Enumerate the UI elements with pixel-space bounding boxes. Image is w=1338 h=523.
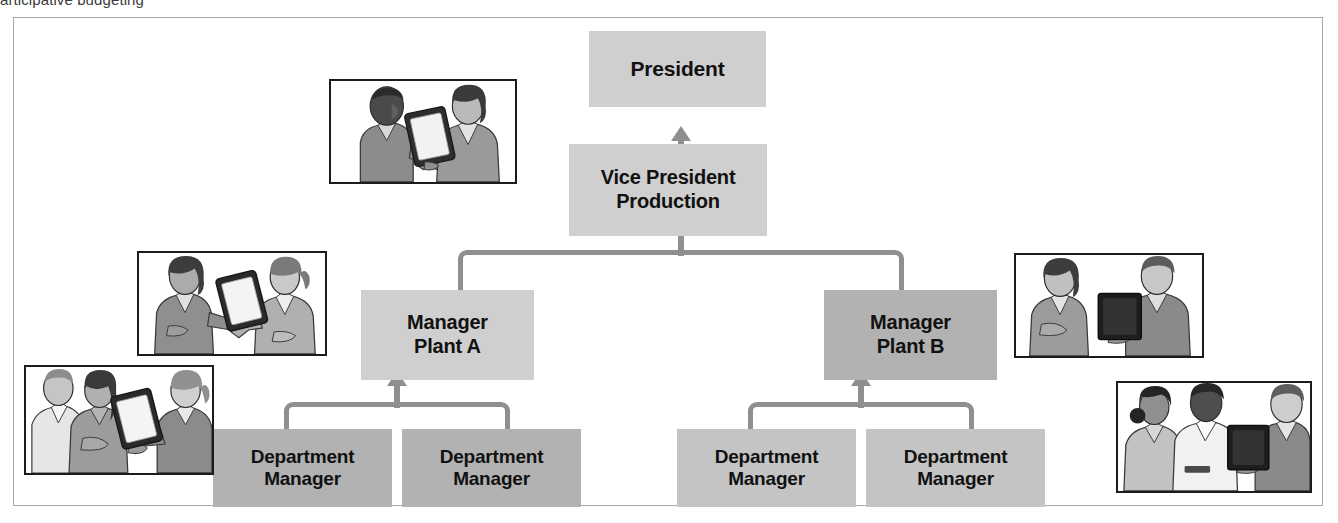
connector-managers-to-vp-stem bbox=[678, 236, 684, 256]
page-caption: articipative budgeting bbox=[0, 0, 144, 8]
figure-frame: President Vice President Production Mana… bbox=[13, 17, 1323, 506]
illustration-top bbox=[329, 79, 517, 184]
node-dept-b1-line1: Department bbox=[715, 446, 819, 468]
node-department-manager-b2[interactable]: Department Manager bbox=[866, 429, 1045, 507]
illustration-right-bottom bbox=[1116, 381, 1312, 493]
illustration-right-middle-art bbox=[1016, 255, 1202, 356]
node-dept-a1-line2: Manager bbox=[251, 468, 355, 490]
node-vp-line1: Vice President bbox=[601, 166, 736, 190]
illustration-left-middle bbox=[137, 251, 327, 356]
connector-dept-a-to-manager-a-stem bbox=[394, 386, 400, 408]
connector-managers-bracket bbox=[458, 250, 904, 292]
node-department-manager-b1[interactable]: Department Manager bbox=[677, 429, 856, 507]
node-vp-line2: Production bbox=[601, 190, 736, 214]
node-manager-plant-b[interactable]: Manager Plant B bbox=[824, 290, 997, 380]
illustration-left-middle-art bbox=[139, 253, 325, 354]
illustration-left-bottom-art bbox=[26, 367, 212, 473]
node-manager-b-line2: Plant B bbox=[870, 335, 951, 359]
node-department-manager-a1[interactable]: Department Manager bbox=[213, 429, 392, 507]
illustration-right-bottom-art bbox=[1118, 383, 1310, 491]
arrow-vp-to-president bbox=[671, 126, 691, 141]
illustration-left-bottom bbox=[24, 365, 214, 475]
node-dept-b2-line1: Department bbox=[904, 446, 1008, 468]
node-president[interactable]: President bbox=[589, 31, 766, 107]
node-president-line1: President bbox=[631, 57, 725, 82]
node-dept-b1-line2: Manager bbox=[715, 468, 819, 490]
node-department-manager-a2[interactable]: Department Manager bbox=[402, 429, 581, 507]
node-manager-b-line1: Manager bbox=[870, 311, 951, 335]
node-dept-a2-line1: Department bbox=[440, 446, 544, 468]
node-manager-plant-a[interactable]: Manager Plant A bbox=[361, 290, 534, 380]
node-dept-a2-line2: Manager bbox=[440, 468, 544, 490]
node-vice-president-production[interactable]: Vice President Production bbox=[569, 144, 767, 236]
connector-dept-b-to-manager-b-stem bbox=[858, 386, 864, 408]
illustration-top-art bbox=[331, 81, 515, 182]
node-dept-a1-line1: Department bbox=[251, 446, 355, 468]
node-manager-a-line2: Plant A bbox=[407, 335, 488, 359]
illustration-right-middle bbox=[1014, 253, 1204, 358]
node-dept-b2-line2: Manager bbox=[904, 468, 1008, 490]
node-manager-a-line1: Manager bbox=[407, 311, 488, 335]
